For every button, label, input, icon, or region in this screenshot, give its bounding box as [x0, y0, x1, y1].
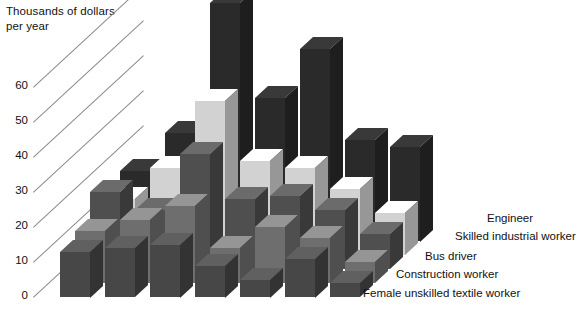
bar-side-face: [180, 233, 193, 298]
bar-female-unskilled-textile-worker-cat6: [285, 259, 315, 298]
legend-item-engineer: Engineer: [487, 212, 533, 224]
bar-front-face: [150, 245, 180, 298]
bar-female-unskilled-textile-worker-cat3: [150, 245, 180, 298]
y-tick-label-40: 40: [2, 149, 28, 161]
bar-front-face: [60, 252, 90, 298]
legend-item-bus-driver: Bus driver: [425, 250, 477, 262]
y-tick-label-50: 50: [2, 114, 28, 126]
y-tick-label-10: 10: [2, 254, 28, 266]
bar-female-unskilled-textile-worker-cat5: [240, 280, 270, 298]
bar-female-unskilled-textile-worker-cat4: [195, 266, 225, 298]
legend-item-skilled-industrial-worker: Skilled industrial worker: [455, 230, 576, 242]
bar-front-face: [195, 266, 225, 298]
y-tick-label-60: 60: [2, 79, 28, 91]
chart-canvas: Thousands of dollars per year 0102030405…: [0, 0, 588, 312]
y-tick-label-30: 30: [2, 184, 28, 196]
bar-front-face: [240, 280, 270, 298]
legend-item-female-unskilled-textile-worker: Female unskilled textile worker: [363, 287, 520, 299]
bar-side-face: [135, 236, 148, 297]
bar-female-unskilled-textile-worker-cat1: [60, 252, 90, 298]
bar-female-unskilled-textile-worker-cat2: [105, 248, 135, 297]
bar-front-face: [330, 283, 360, 297]
y-axis-title: Thousands of dollars per year: [6, 4, 115, 34]
y-tick-label-20: 20: [2, 219, 28, 231]
bar-front-face: [105, 248, 135, 297]
bar-front-face: [285, 259, 315, 298]
bar-female-unskilled-textile-worker-cat7: [330, 283, 360, 297]
y-tick-label-0: 0: [2, 289, 28, 301]
legend-item-construction-worker: Construction worker: [396, 268, 498, 280]
bar-side-face: [420, 135, 433, 242]
